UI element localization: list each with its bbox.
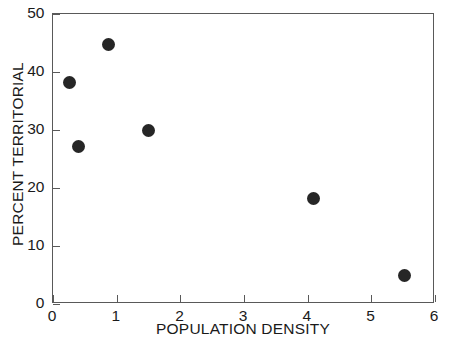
data-point — [63, 76, 76, 89]
data-point — [102, 38, 115, 51]
x-axis-tick — [435, 295, 436, 302]
y-axis-tick — [53, 246, 60, 247]
y-axis-title: PERCENT TERRITORIAL — [9, 54, 27, 254]
x-axis-tick — [308, 295, 309, 302]
y-axis-tick — [53, 304, 60, 305]
data-point — [398, 269, 411, 282]
y-axis-tick — [53, 14, 60, 15]
scatter-plot-figure: 010203040500123456 POPULATION DENSITY PE… — [0, 0, 452, 345]
x-axis-tick — [117, 295, 118, 302]
y-axis-tick — [53, 188, 60, 189]
y-axis-tick-label: 50 — [4, 4, 44, 22]
x-axis-tick — [53, 295, 54, 302]
y-axis-tick — [53, 72, 60, 73]
data-point — [307, 192, 320, 205]
x-axis-tick — [180, 295, 181, 302]
plot-area — [52, 13, 434, 303]
y-axis-tick — [53, 130, 60, 131]
x-axis-tick — [371, 295, 372, 302]
data-point — [142, 124, 155, 137]
x-axis-tick — [244, 295, 245, 302]
x-axis-title: POPULATION DENSITY — [52, 320, 434, 338]
